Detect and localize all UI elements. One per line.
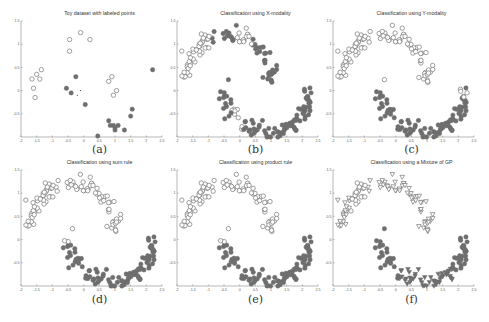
x-tick-label: 0.5 bbox=[97, 288, 102, 292]
open-circle-marker bbox=[69, 183, 73, 187]
y-tick-label: 0.5 bbox=[15, 66, 20, 70]
x-tick-label: -1.5 bbox=[34, 139, 40, 143]
open-circle-marker bbox=[407, 37, 411, 41]
filled-circle-marker bbox=[389, 109, 393, 113]
open-circle-marker bbox=[218, 239, 222, 243]
filled-circle-marker bbox=[383, 263, 387, 267]
open-circle-marker bbox=[363, 34, 367, 38]
open-circle-marker bbox=[262, 200, 266, 204]
open-circle-marker bbox=[225, 183, 229, 187]
filled-circle-marker bbox=[67, 266, 71, 270]
y-tick-label: 0.5 bbox=[15, 215, 20, 219]
x-tick-label: 1 bbox=[426, 139, 428, 143]
filled-circle-marker bbox=[130, 107, 134, 111]
filled-circle-marker bbox=[451, 113, 455, 117]
y-tick-label: -0.5 bbox=[13, 261, 19, 265]
filled-circle-marker bbox=[308, 86, 312, 90]
filled-circle-marker bbox=[217, 97, 221, 101]
filled-circle-marker bbox=[307, 250, 311, 254]
filled-circle-marker bbox=[462, 244, 466, 248]
subplot-caption: (f) bbox=[405, 293, 418, 306]
filled-circle-marker bbox=[273, 275, 277, 279]
open-circle-marker bbox=[253, 196, 257, 200]
open-circle-marker bbox=[263, 207, 267, 211]
open-circle-marker bbox=[105, 194, 109, 198]
open-circle-marker bbox=[113, 228, 117, 232]
filled-circle-marker bbox=[413, 123, 417, 127]
filled-circle-marker bbox=[307, 101, 311, 105]
filled-circle-marker bbox=[308, 258, 312, 262]
filled-circle-marker bbox=[379, 101, 383, 105]
filled-circle-marker bbox=[422, 134, 426, 138]
filled-circle-marker bbox=[117, 275, 121, 279]
filled-circle-marker bbox=[111, 275, 115, 279]
y-tick-label: 1.5 bbox=[15, 19, 20, 23]
x-tick-label: 1.5 bbox=[284, 139, 289, 143]
open-circle-marker bbox=[45, 185, 49, 189]
open-circle-marker bbox=[102, 198, 106, 202]
open-circle-marker bbox=[235, 184, 239, 188]
open-circle-marker bbox=[68, 178, 72, 182]
x-tick-label: -1 bbox=[207, 288, 210, 292]
open-circle-marker bbox=[51, 183, 55, 187]
open-circle-marker bbox=[88, 175, 92, 179]
filled-circle-marker bbox=[450, 118, 454, 122]
filled-circle-marker bbox=[271, 280, 275, 284]
open-circle-marker bbox=[188, 56, 192, 60]
x-tick-label: 0 bbox=[395, 288, 397, 292]
filled-circle-marker bbox=[151, 250, 155, 254]
open-circle-marker bbox=[465, 91, 469, 95]
open-circle-marker bbox=[88, 37, 92, 41]
filled-circle-marker bbox=[250, 118, 254, 122]
open-circle-marker bbox=[38, 197, 42, 201]
x-tick-label: 1.5 bbox=[284, 288, 289, 292]
x-tick-label: -2 bbox=[175, 288, 178, 292]
open-circle-marker bbox=[91, 183, 95, 187]
filled-circle-marker bbox=[138, 267, 142, 271]
open-tri-marker bbox=[390, 173, 395, 177]
open-circle-marker bbox=[344, 56, 348, 60]
open-circle-marker bbox=[207, 183, 211, 187]
subplot-title: Toy dataset with labeled points bbox=[64, 10, 135, 16]
filled-circle-marker bbox=[464, 258, 468, 262]
filled-circle-marker bbox=[263, 58, 267, 62]
y-tick-label: 1.5 bbox=[327, 19, 332, 23]
filled-circle-marker bbox=[451, 262, 455, 266]
y-tick-label: 1 bbox=[330, 191, 332, 195]
x-tick-label: -1.5 bbox=[34, 288, 40, 292]
open-tri-marker bbox=[336, 198, 341, 202]
open-circle-marker bbox=[110, 74, 114, 78]
open-circle-marker bbox=[97, 196, 101, 200]
filled-circle-marker bbox=[464, 86, 468, 90]
y-tick-label: 1 bbox=[174, 191, 176, 195]
filled-circle-marker bbox=[309, 91, 313, 95]
filled-circle-marker bbox=[437, 131, 441, 135]
open-circle-marker bbox=[400, 26, 404, 30]
y-tick-label: 1.5 bbox=[171, 168, 176, 172]
filled-circle-marker bbox=[459, 115, 463, 119]
filled-circle-marker bbox=[80, 265, 84, 269]
y-tick-label: 0.5 bbox=[171, 215, 176, 219]
open-circle-marker bbox=[114, 88, 118, 92]
filled-circle-marker bbox=[233, 258, 237, 262]
x-tick-label: -2 bbox=[19, 288, 22, 292]
filled-circle-marker bbox=[405, 133, 409, 137]
filled-circle-marker bbox=[295, 113, 299, 117]
filled-tri-marker bbox=[405, 282, 410, 286]
open-circle-marker bbox=[188, 213, 192, 217]
filled-circle-marker bbox=[110, 283, 114, 287]
open-tri-marker bbox=[430, 213, 435, 217]
filled-circle-marker bbox=[229, 35, 233, 39]
x-tick-label: 1.5 bbox=[128, 139, 133, 143]
open-tri-marker bbox=[407, 186, 412, 190]
filled-circle-marker bbox=[308, 109, 312, 113]
unlabeled-dot-marker bbox=[80, 90, 81, 91]
filled-circle-marker bbox=[261, 75, 265, 79]
filled-circle-marker bbox=[379, 117, 383, 121]
filled-circle-marker bbox=[150, 68, 154, 72]
filled-circle-marker bbox=[303, 264, 307, 268]
x-tick-label: 1 bbox=[114, 139, 116, 143]
open-circle-marker bbox=[398, 39, 402, 43]
y-tick-label: -0.5 bbox=[325, 261, 331, 265]
filled-circle-marker bbox=[242, 276, 246, 280]
